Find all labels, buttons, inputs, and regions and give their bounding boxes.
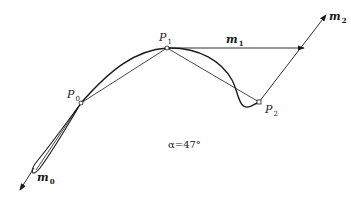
curve-loop [32,103,81,173]
curve [81,48,259,107]
label-p1: P1 [159,32,172,43]
vector-m2 [259,15,326,102]
bezier-curve-diagram [0,0,351,201]
angle-annotation: α=47° [168,140,201,150]
label-m2: m2 [329,11,347,22]
control-polygon [36,48,259,170]
label-p0: P0 [67,89,80,100]
label-p2: P2 [265,104,278,115]
point-p1-marker [165,46,169,50]
point-p2-marker [257,100,261,104]
label-m1: m1 [226,34,244,45]
label-m0: m0 [37,172,55,183]
